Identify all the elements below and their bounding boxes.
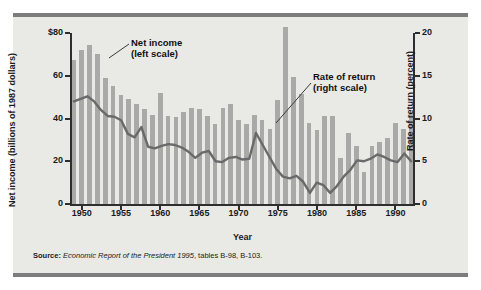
y-tick-label-right: 15 [422,71,432,80]
x-tick-label: 1985 [346,209,366,218]
y-tick-label-left: 60 [53,71,63,80]
x-tick-label: 1950 [72,209,92,218]
y-tick-label-left: 20 [53,156,63,165]
x-tick-label: 1960 [150,209,170,218]
source-tables: , tables B-98, B-103. [194,251,262,260]
y-tick-left [65,203,70,205]
y-tick-label-left: 0 [58,199,63,208]
x-tick-label: 1990 [385,209,405,218]
plot-area: 0204060$80 05101520 19501955196019651970… [70,33,415,204]
y-tick-label-left: 40 [53,114,63,123]
y-tick-right [415,32,420,34]
annotation-net-income: Net income (left scale) [131,37,182,59]
annotation-rate-line1: Rate of return [313,71,375,82]
y-tick-left [65,118,70,120]
source-label: Source: [33,251,61,260]
y-tick-right [415,75,420,77]
annotation-net-income-line1: Net income [131,37,182,48]
source-note: Source: Economic Report of the President… [33,251,262,260]
y-tick-right [415,160,420,162]
y-tick-label-right: 20 [422,28,432,37]
y-tick-label-right: 5 [422,156,427,165]
top-rule [13,13,468,17]
y-axis-right-title: Rate of return (percent) [405,51,415,151]
y-tick-left [65,32,70,34]
y-tick-label-left: $80 [48,28,63,37]
line-series-rate-of-return [70,33,415,204]
x-tick-label: 1970 [229,209,249,218]
y-tick-label-right: 0 [422,199,427,208]
y-tick-left [65,160,70,162]
x-axis-title: Year [70,232,415,242]
x-tick-label: 1955 [111,209,131,218]
bottom-rule [13,273,468,277]
y-tick-right [415,203,420,205]
y-axis-left-title: Net income (billions of 1987 dollars) [7,53,17,207]
figure-panel: 0204060$80 05101520 19501955196019651970… [13,13,468,277]
source-title: Economic Report of the President 1995 [63,251,194,260]
y-tick-right [415,118,420,120]
annotation-rate-of-return: Rate of return (right scale) [313,71,375,93]
x-tick-label: 1965 [189,209,209,218]
x-tick-label: 1980 [307,209,327,218]
annotation-net-income-line2: (left scale) [131,48,182,59]
x-tick-label: 1975 [268,209,288,218]
y-tick-label-right: 10 [422,114,432,123]
annotation-rate-line2: (right scale) [313,82,375,93]
y-tick-left [65,75,70,77]
